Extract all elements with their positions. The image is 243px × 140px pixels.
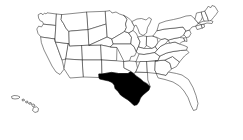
inset-hawaii[interactable] — [22, 99, 39, 113]
state-WY[interactable] — [69, 30, 89, 47]
state-HI-bigisland — [33, 107, 39, 113]
state-MS[interactable] — [136, 62, 148, 73]
state-HI-maui — [32, 104, 36, 107]
us-states-map-figure — [0, 0, 243, 140]
state-CO[interactable] — [82, 45, 102, 60]
state-OR[interactable] — [37, 24, 56, 39]
state-AZ[interactable] — [64, 59, 83, 78]
state-HI-kauai — [22, 99, 25, 101]
state-UT[interactable] — [66, 44, 83, 60]
state-WA[interactable] — [39, 13, 57, 26]
state-HI-oahu — [26, 101, 29, 103]
state-TN[interactable] — [136, 53, 160, 62]
state-AK — [12, 96, 21, 100]
state-HI-molokai — [29, 103, 32, 105]
inset-alaska[interactable] — [12, 96, 21, 100]
us-states-map[interactable] — [0, 0, 243, 140]
state-FL[interactable] — [157, 72, 199, 111]
